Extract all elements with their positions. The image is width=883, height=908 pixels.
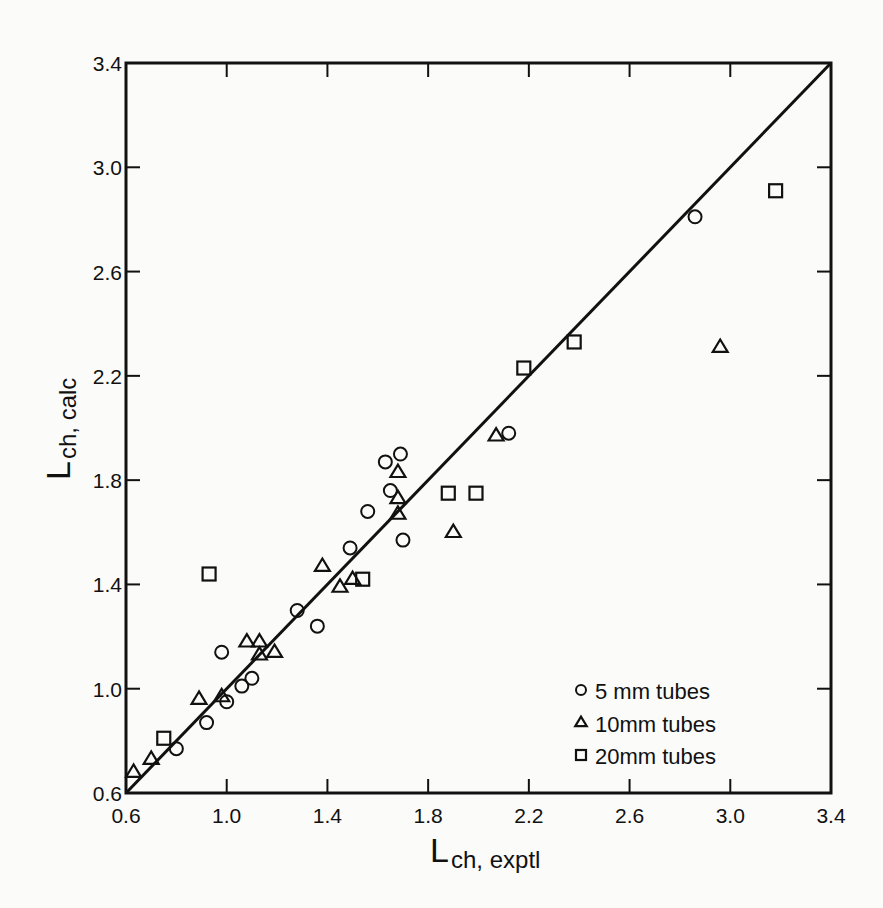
- triangle-marker-icon: [333, 579, 348, 591]
- square-marker-icon: [203, 568, 216, 581]
- triangle-marker-icon: [144, 751, 159, 763]
- legend-item: 10mm tubes: [575, 712, 716, 737]
- circle-marker-icon: [215, 646, 228, 659]
- x-tick-label: 3.0: [716, 804, 745, 827]
- x-axis-label-sub: ch, exptl: [451, 846, 540, 873]
- x-tick-label: 1.8: [414, 804, 443, 827]
- y-tick-label: 1.8: [93, 469, 122, 492]
- circle-marker-icon: [396, 534, 409, 547]
- y-tick-label: 1.0: [93, 678, 122, 701]
- triangle-marker-icon: [315, 559, 330, 571]
- y-tick-label: 2.6: [93, 261, 122, 284]
- x-tick-label: 2.2: [514, 804, 543, 827]
- circle-marker-icon: [344, 541, 357, 554]
- scatter-chart: 0.61.01.41.82.22.63.03.4 0.61.01.41.82.2…: [0, 0, 883, 908]
- legend-label: 10mm tubes: [595, 712, 716, 737]
- triangle-marker-icon: [575, 717, 587, 727]
- circle-marker-icon: [394, 448, 407, 461]
- series-circle: [170, 210, 702, 755]
- triangle-marker-icon: [126, 764, 141, 776]
- circle-marker-icon: [576, 685, 586, 695]
- y-axis-label: L ch, calc: [39, 378, 81, 480]
- x-tick-label: 2.6: [615, 804, 644, 827]
- x-axis-ticks: 0.61.01.41.82.22.63.03.4: [111, 63, 846, 827]
- triangle-marker-icon: [446, 525, 461, 537]
- y-tick-label: 1.4: [93, 573, 123, 596]
- circle-marker-icon: [689, 210, 702, 223]
- square-marker-icon: [469, 487, 482, 500]
- y-tick-label: 2.2: [93, 365, 122, 388]
- series-square: [157, 184, 782, 745]
- x-axis-label-main: L: [430, 831, 449, 869]
- circle-marker-icon: [502, 427, 515, 440]
- circle-marker-icon: [379, 455, 392, 468]
- circle-marker-icon: [200, 716, 213, 729]
- legend: 5 mm tubes10mm tubes20mm tubes: [575, 679, 716, 769]
- triangle-marker-icon: [192, 691, 207, 703]
- y-axis-label-sub: ch, calc: [54, 378, 81, 459]
- circle-marker-icon: [170, 742, 183, 755]
- square-marker-icon: [576, 750, 586, 760]
- y-axis-ticks: 0.61.01.41.82.22.63.03.4: [93, 52, 831, 805]
- x-tick-label: 3.4: [816, 804, 846, 827]
- circle-marker-icon: [361, 505, 374, 518]
- y-axis-label-main: L: [39, 461, 77, 480]
- triangle-marker-icon: [252, 634, 267, 646]
- x-tick-label: 1.0: [212, 804, 241, 827]
- circle-marker-icon: [311, 620, 324, 633]
- circle-marker-icon: [245, 672, 258, 685]
- legend-label: 5 mm tubes: [595, 679, 710, 704]
- square-marker-icon: [568, 335, 581, 348]
- triangle-marker-icon: [713, 340, 728, 352]
- legend-item: 5 mm tubes: [576, 679, 710, 704]
- y-tick-label: 0.6: [93, 782, 122, 805]
- square-marker-icon: [157, 732, 170, 745]
- x-axis-label: L ch, exptl: [430, 831, 540, 873]
- x-tick-label: 1.4: [313, 804, 343, 827]
- square-marker-icon: [442, 487, 455, 500]
- y-tick-label: 3.4: [93, 52, 123, 75]
- triangle-marker-icon: [390, 465, 405, 477]
- legend-label: 20mm tubes: [595, 744, 716, 769]
- y-tick-label: 3.0: [93, 156, 122, 179]
- square-marker-icon: [769, 184, 782, 197]
- legend-item: 20mm tubes: [576, 744, 716, 769]
- reference-line-y-equals-x: [126, 63, 831, 793]
- square-marker-icon: [517, 362, 530, 375]
- x-tick-label: 0.6: [111, 804, 140, 827]
- reference-line: [126, 63, 831, 793]
